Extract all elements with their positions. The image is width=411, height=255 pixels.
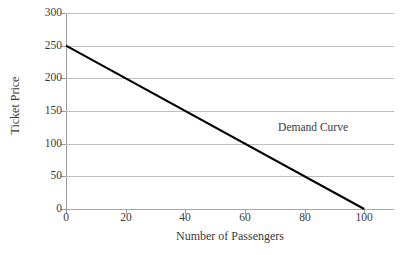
x-axis-tick-label: 20 <box>106 212 146 224</box>
x-axis-tick-label: 80 <box>285 212 325 224</box>
x-axis-tick-label: 40 <box>165 212 205 224</box>
y-axis-tick-label: 150 <box>26 105 62 117</box>
y-axis-title: Ticket Price <box>8 56 23 156</box>
x-axis-tick-labels: 020406080100 <box>66 212 394 228</box>
x-axis-title: Number of Passengers <box>66 229 394 244</box>
demand-curve-annotation: Demand Curve <box>278 121 348 133</box>
gridline <box>66 209 394 210</box>
y-axis-tick-label: 50 <box>26 170 62 182</box>
plot-area: Demand Curve <box>66 13 394 209</box>
demand-curve-chart: Demand Curve 050100150200250300 02040608… <box>0 0 411 255</box>
x-axis-tick-label: 0 <box>46 212 86 224</box>
y-axis-tick-label: 300 <box>26 7 62 19</box>
x-axis-tick-label: 60 <box>225 212 265 224</box>
x-axis-tick-label: 100 <box>344 212 384 224</box>
y-axis-tick-labels: 050100150200250300 <box>22 13 62 209</box>
y-axis-tick-label: 100 <box>26 138 62 150</box>
y-axis-tick-label: 200 <box>26 72 62 84</box>
y-axis-tick-label: 250 <box>26 40 62 52</box>
series-demand-curve <box>66 13 394 209</box>
